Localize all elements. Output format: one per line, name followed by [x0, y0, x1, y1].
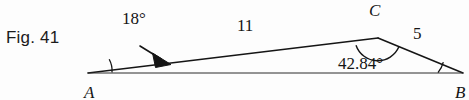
side-length-label-CB: 5	[413, 25, 422, 42]
angle-a-arrowhead-icon	[153, 53, 172, 68]
side-length-label-AC: 11	[237, 17, 253, 34]
vertex-label-B: B	[455, 84, 465, 100]
angle-label-B: 42.84°	[338, 55, 383, 72]
vertex-label-C: C	[369, 2, 380, 19]
line-segment-AC	[88, 38, 378, 73]
vertex-label-A: A	[84, 84, 94, 100]
triangle-drawing	[0, 0, 469, 100]
angle-label-A: 18°	[122, 10, 146, 27]
figure-41-container: Fig. 41 18° 11 5 42.84° C A B	[0, 0, 469, 100]
line-segment-CB	[378, 38, 463, 73]
